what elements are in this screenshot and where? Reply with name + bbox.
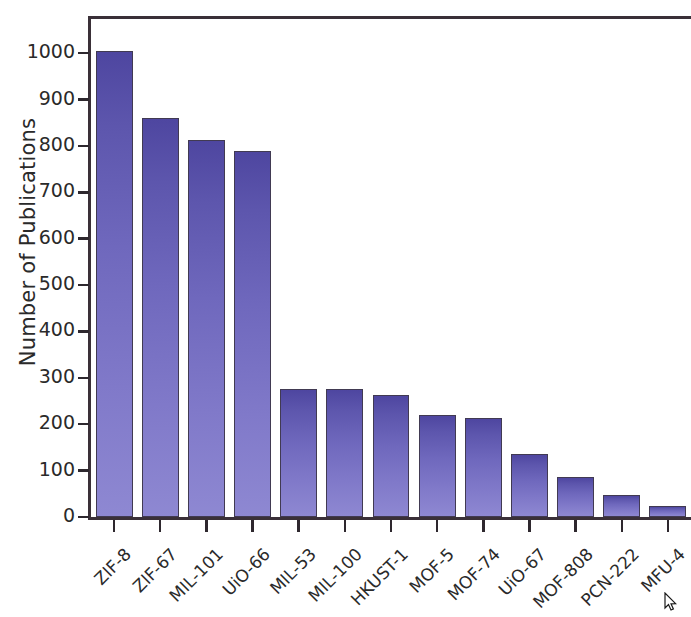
bar bbox=[188, 140, 225, 517]
y-axis-title: Number of Publications bbox=[16, 32, 40, 452]
y-axis-tick-label: 100 bbox=[39, 458, 75, 480]
x-axis-tick bbox=[667, 520, 670, 532]
x-axis-tick bbox=[390, 520, 393, 532]
x-axis-tick bbox=[159, 520, 162, 532]
bar bbox=[511, 454, 548, 517]
y-axis-tick bbox=[78, 516, 89, 519]
plot-area: 01002003004005006007008009001000 ZIF-8ZI… bbox=[88, 16, 691, 520]
x-axis-tick bbox=[621, 520, 624, 532]
bar bbox=[557, 477, 594, 517]
y-axis-tick bbox=[78, 98, 89, 101]
y-axis-tick-label: 300 bbox=[39, 365, 75, 387]
x-axis-tick bbox=[528, 520, 531, 532]
bar bbox=[649, 506, 686, 517]
bar bbox=[326, 389, 363, 517]
x-axis-tick bbox=[205, 520, 208, 532]
y-axis-tick bbox=[78, 469, 89, 472]
y-axis-tick-label: 0 bbox=[63, 504, 75, 526]
x-axis-tick bbox=[113, 520, 116, 532]
y-axis-tick bbox=[78, 330, 89, 333]
bar-series bbox=[91, 16, 691, 517]
y-axis-tick bbox=[78, 52, 89, 55]
bar-chart-figure: Number of Publications 01002003004005006… bbox=[0, 0, 691, 617]
bar bbox=[280, 389, 317, 517]
x-axis-tick bbox=[297, 520, 300, 532]
y-axis-tick bbox=[78, 377, 89, 380]
y-axis-tick-label: 900 bbox=[39, 87, 75, 109]
y-axis-tick-label: 500 bbox=[39, 272, 75, 294]
x-axis-tick bbox=[482, 520, 485, 532]
x-axis-tick bbox=[436, 520, 439, 532]
y-axis-tick-label: 200 bbox=[39, 411, 75, 433]
x-axis-tick bbox=[574, 520, 577, 532]
bar bbox=[603, 495, 640, 517]
bar bbox=[373, 395, 410, 517]
y-axis-tick-label: 800 bbox=[39, 133, 75, 155]
y-axis-tick-label: 400 bbox=[39, 318, 75, 340]
x-axis-tick bbox=[251, 520, 254, 532]
y-axis-tick-label: 600 bbox=[39, 226, 75, 248]
y-axis-tick-label: 700 bbox=[39, 179, 75, 201]
bar bbox=[419, 415, 456, 517]
bar bbox=[96, 51, 133, 517]
bar bbox=[142, 118, 179, 517]
x-axis-tick bbox=[344, 520, 347, 532]
y-axis-tick bbox=[78, 145, 89, 148]
y-axis-tick-label: 1000 bbox=[27, 40, 75, 62]
y-axis-tick bbox=[78, 237, 89, 240]
bar bbox=[234, 151, 271, 517]
y-axis-tick bbox=[78, 284, 89, 287]
bar bbox=[465, 418, 502, 517]
y-axis-tick bbox=[78, 423, 89, 426]
mouse-pointer-icon bbox=[664, 592, 677, 611]
y-axis-tick bbox=[78, 191, 89, 194]
